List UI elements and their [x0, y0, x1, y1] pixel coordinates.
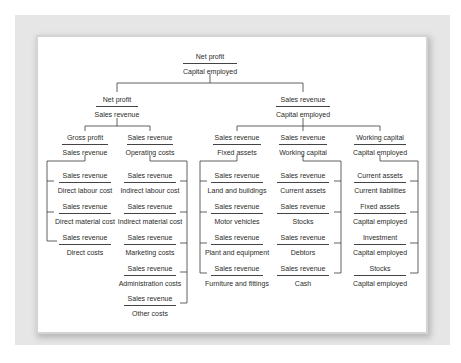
numerator: Current assets: [325, 171, 435, 182]
numerator: Net profit: [62, 95, 172, 106]
denominator: Capital employed: [325, 245, 435, 257]
numerator: Fixed assets: [325, 202, 435, 213]
numerator: Sales revenue: [248, 95, 358, 106]
ratio-node-current-ratio: Current assetsCurrent liabilities: [325, 171, 435, 195]
ratio-node-wc-capital: Working capitalCapital employed: [325, 133, 435, 157]
ratio-node-root: Net profitCapital employed: [155, 52, 265, 76]
ratio-node-l1-right: Sales revenueCapital employed: [248, 95, 358, 119]
denominator: Other costs: [95, 306, 205, 318]
ratio-node-stocks-ce: StocksCapital employed: [325, 264, 435, 288]
ratio-node-other-costs: Sales revenueOther costs: [95, 294, 205, 318]
denominator: Sales revenue: [62, 107, 172, 119]
ratio-node-l1-left: Net profitSales revenue: [62, 95, 172, 119]
numerator: Net profit: [155, 52, 265, 63]
ratio-node-investment-ce: InvestmentCapital employed: [325, 233, 435, 257]
numerator: Sales revenue: [95, 294, 205, 305]
numerator: Stocks: [325, 264, 435, 275]
denominator: Capital employed: [325, 276, 435, 288]
denominator: Capital employed: [325, 145, 435, 157]
denominator: Capital employed: [155, 64, 265, 76]
denominator: Capital employed: [248, 107, 358, 119]
ratio-node-fa-ce: Fixed assetsCapital employed: [325, 202, 435, 226]
denominator: Capital employed: [325, 214, 435, 226]
numerator: Investment: [325, 233, 435, 244]
numerator: Working capital: [325, 133, 435, 144]
denominator: Current liabilities: [325, 183, 435, 195]
